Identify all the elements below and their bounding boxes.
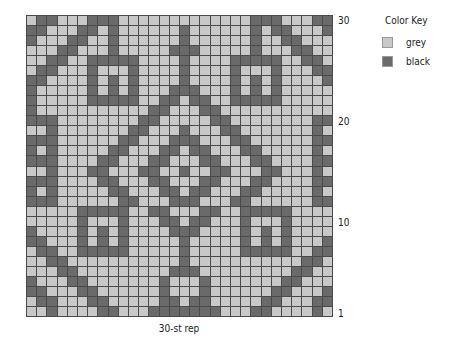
chart-cell [221, 167, 230, 176]
color-key-item-black: black [382, 56, 430, 67]
chart-cell [190, 76, 199, 85]
chart-cell [119, 267, 128, 276]
chart-cell [58, 36, 67, 45]
chart-cell [200, 116, 209, 125]
chart-cell [68, 197, 77, 206]
chart-cell [200, 277, 209, 286]
chart-cell [231, 217, 240, 226]
color-key-item-grey: grey [382, 37, 426, 48]
chart-cell [200, 106, 209, 115]
chart-cell [68, 96, 77, 105]
chart-cell [47, 116, 56, 125]
chart-cell [221, 257, 230, 266]
chart-cell [180, 247, 189, 256]
chart-cell [272, 217, 281, 226]
chart-cell [211, 36, 220, 45]
chart-cell [180, 36, 189, 45]
chart-cell [221, 106, 230, 115]
chart-cell [170, 257, 179, 266]
chart-cell [282, 86, 291, 95]
chart-cell [129, 36, 138, 45]
chart-cell [37, 146, 46, 155]
chart-cell [27, 136, 36, 145]
chart-cell [139, 187, 148, 196]
chart-cell [119, 16, 128, 25]
chart-cell [211, 237, 220, 246]
chart-cell [160, 247, 169, 256]
chart-cell [200, 237, 209, 246]
chart-cell [231, 26, 240, 35]
chart-cell [180, 96, 189, 105]
chart-cell [88, 217, 97, 226]
chart-cell [190, 86, 199, 95]
chart-cell [251, 187, 260, 196]
chart-cell [272, 237, 281, 246]
chart-cell [37, 66, 46, 75]
chart-cell [98, 167, 107, 176]
chart-cell [313, 167, 322, 176]
chart-cell [313, 116, 322, 125]
chart-cell [211, 187, 220, 196]
chart-cell [119, 177, 128, 186]
chart-cell [170, 167, 179, 176]
chart-cell [78, 197, 87, 206]
chart-cell [302, 207, 311, 216]
chart-cell [251, 146, 260, 155]
chart-cell [27, 26, 36, 35]
chart-cell [272, 197, 281, 206]
chart-cell [119, 26, 128, 35]
chart-cell [262, 257, 271, 266]
chart-cell [119, 156, 128, 165]
chart-cell [180, 76, 189, 85]
chart-cell [149, 217, 158, 226]
chart-cell [149, 36, 158, 45]
chart-cell [262, 297, 271, 306]
chart-cell [200, 177, 209, 186]
chart-cell [160, 257, 169, 266]
chart-cell [88, 227, 97, 236]
chart-cell [78, 16, 87, 25]
chart-cell [119, 86, 128, 95]
chart-cell [241, 207, 250, 216]
chart-cell [37, 267, 46, 276]
chart-cell [313, 46, 322, 55]
chart-cell [98, 126, 107, 135]
chart-cell [231, 177, 240, 186]
chart-cell [88, 96, 97, 105]
chart-cell [302, 16, 311, 25]
chart-cell [78, 297, 87, 306]
chart-cell [231, 247, 240, 256]
chart-cell [292, 56, 301, 65]
chart-cell [180, 56, 189, 65]
chart-cell [241, 307, 250, 316]
chart-cell [68, 126, 77, 135]
chart-cell [47, 76, 56, 85]
chart-cell [180, 116, 189, 125]
chart-cell [211, 167, 220, 176]
chart-cell [58, 217, 67, 226]
chart-cell [211, 16, 220, 25]
chart-cell [160, 177, 169, 186]
chart-cell [27, 277, 36, 286]
chart-cell [88, 76, 97, 85]
chart-cell [272, 277, 281, 286]
chart-cell [160, 167, 169, 176]
chart-cell [109, 146, 118, 155]
chart-cell [47, 106, 56, 115]
chart-cell [37, 16, 46, 25]
chart-cell [190, 106, 199, 115]
chart-cell [129, 116, 138, 125]
chart-cell [139, 16, 148, 25]
chart-cell [231, 297, 240, 306]
chart-cell [149, 167, 158, 176]
chart-cell [292, 116, 301, 125]
chart-cell [160, 66, 169, 75]
row-label-30: 30 [338, 15, 349, 26]
chart-cell [170, 177, 179, 186]
chart-cell [272, 86, 281, 95]
chart-cell [98, 106, 107, 115]
chart-cell [139, 126, 148, 135]
chart-cell [68, 237, 77, 246]
chart-cell [47, 56, 56, 65]
chart-cell [129, 167, 138, 176]
